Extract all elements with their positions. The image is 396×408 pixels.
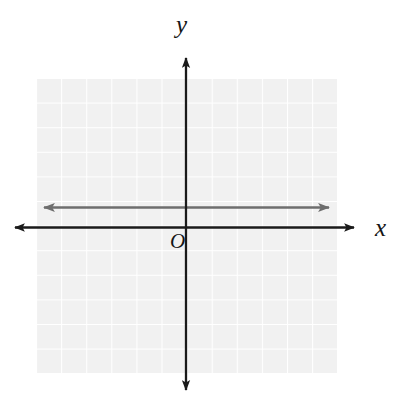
x-axis-label: x (375, 215, 386, 240)
coordinate-plane-figure: y x O (0, 0, 396, 408)
coordinate-plane-svg (0, 0, 396, 408)
y-axis-label: y (176, 12, 187, 37)
origin-label: O (170, 231, 185, 252)
